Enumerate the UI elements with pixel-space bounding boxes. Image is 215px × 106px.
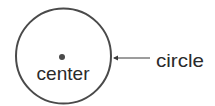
circle-diagram: center circle bbox=[0, 0, 215, 106]
center-point bbox=[59, 54, 65, 60]
center-label: center bbox=[37, 63, 91, 84]
arrowhead-icon bbox=[113, 56, 118, 61]
circle-label: circle bbox=[156, 50, 204, 71]
